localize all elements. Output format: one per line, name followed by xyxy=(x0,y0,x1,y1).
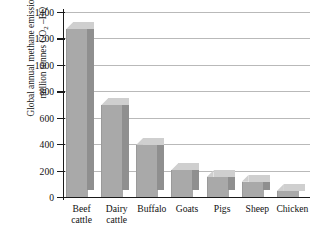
x-axis-category-labels: BeefcattleDairycattleBuffaloGoatsPigsShe… xyxy=(64,200,310,234)
y-axis-tick-label: 1200 xyxy=(35,33,54,44)
y-axis-tick-label: 200 xyxy=(40,165,54,176)
y-axis-tick xyxy=(57,197,65,198)
bar-side-face xyxy=(122,98,129,190)
bar-side-face xyxy=(157,138,164,190)
bar-front-face xyxy=(136,145,158,197)
plot-area: 0200400600800100012001400 xyxy=(64,12,310,197)
bar-top-face xyxy=(143,138,164,145)
bar-front-face xyxy=(277,191,299,197)
y-axis-tick xyxy=(57,144,65,145)
y-axis-tick-label: 400 xyxy=(40,139,54,150)
y-axis-tick xyxy=(57,65,65,66)
bar-side-face xyxy=(87,22,94,190)
bar-top-face xyxy=(178,163,199,170)
y-axis-tick xyxy=(57,118,65,119)
y-axis-title-line-1: Global annual methane emissions/ xyxy=(26,0,38,148)
bar-goats xyxy=(171,163,192,197)
bar-top-face xyxy=(73,22,94,29)
bar-top-face xyxy=(108,98,129,105)
y-axis-tick xyxy=(57,12,65,13)
x-axis-label-line: cattle xyxy=(93,214,140,225)
bar-top-bevel xyxy=(242,175,249,182)
bar-top-bevel xyxy=(207,170,214,177)
gridline xyxy=(64,91,310,92)
y-axis-tick-label: 0 xyxy=(49,192,54,203)
bar-front-face xyxy=(207,177,229,197)
x-axis-label-line: Chicken xyxy=(269,203,316,214)
x-axis-line xyxy=(57,197,310,198)
bar-sheep xyxy=(242,175,263,197)
gridline xyxy=(64,12,310,13)
bar-front-face xyxy=(242,182,264,197)
bar-top-bevel xyxy=(66,22,73,29)
y-axis-title: Global annual methane emissions/ million… xyxy=(26,0,51,148)
y-axis-title-line-2: million tonnes CO2 –EQ xyxy=(38,0,52,148)
bar-front-face xyxy=(66,29,88,197)
bar-top-bevel xyxy=(136,138,143,145)
bar-top-bevel xyxy=(171,163,178,170)
bar-front-face xyxy=(101,105,123,197)
bar-top-face xyxy=(284,184,305,191)
y-axis-tick xyxy=(57,91,65,92)
bar-top-face xyxy=(214,170,235,177)
y-axis-tick-label: 800 xyxy=(40,86,54,97)
bar-top-bevel xyxy=(101,98,108,105)
y-axis-title-subscript: 2 xyxy=(41,26,49,30)
bar-pigs xyxy=(207,170,228,197)
y-axis-tick-label: 600 xyxy=(40,112,54,123)
bar-buffalo xyxy=(136,138,157,197)
gridline xyxy=(64,38,310,39)
x-axis-label-chicken: Chicken xyxy=(269,203,316,214)
bar-front-face xyxy=(171,170,193,197)
y-axis-tick-label: 1000 xyxy=(35,59,54,70)
y-axis-tick xyxy=(57,38,65,39)
bar-beef-cattle xyxy=(66,22,87,197)
y-axis-tick xyxy=(57,171,65,172)
bar-chart: Global annual methane emissions/ million… xyxy=(0,0,328,237)
bar-top-face xyxy=(249,175,270,182)
bar-dairy-cattle xyxy=(101,98,122,197)
bar-top-bevel xyxy=(277,184,284,191)
gridline xyxy=(64,65,310,66)
y-axis-tick-label: 1400 xyxy=(35,7,54,18)
bar-chicken xyxy=(277,184,298,197)
